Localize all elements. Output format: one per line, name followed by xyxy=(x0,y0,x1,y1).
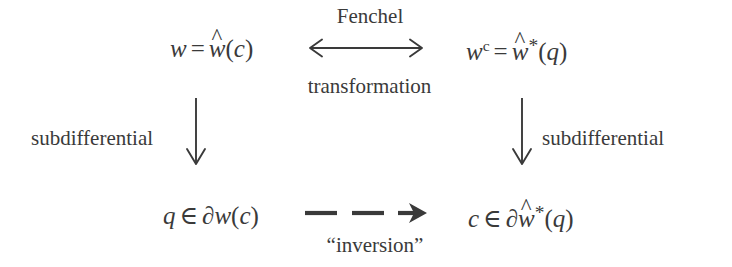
element-of-sign: ∈ xyxy=(483,205,502,232)
node-top-right-fn: w xyxy=(512,38,529,65)
node-top-right-arg: q xyxy=(546,38,559,65)
partial-derivative-symbol: ∂ xyxy=(202,202,214,229)
arrow-subdifferential-right-down xyxy=(506,98,538,168)
paren-close: ) xyxy=(251,202,259,229)
paren-open: ( xyxy=(225,35,233,62)
node-bottom-left-lhs: q xyxy=(163,202,176,229)
partial-derivative-symbol: ∂ xyxy=(506,205,518,232)
label-transformation: transformation xyxy=(287,76,452,97)
node-top-left-lhs: w xyxy=(170,35,187,62)
node-top-left: w=^w(c) xyxy=(170,36,253,61)
paren-open: ( xyxy=(544,205,552,232)
node-top-left-arg: c xyxy=(234,35,245,62)
arrow-inversion-dashed xyxy=(303,200,431,226)
node-top-left-fn: w xyxy=(209,35,226,62)
node-bottom-right: c∈∂^w*(q) xyxy=(468,203,574,231)
node-bottom-right-fn: w xyxy=(518,205,535,232)
w-hat-group: ^w xyxy=(209,36,226,61)
node-bottom-right-lhs: c xyxy=(468,205,479,232)
equals-sign: = xyxy=(191,35,205,62)
element-of-sign: ∈ xyxy=(180,202,199,229)
label-inversion: “inversion” xyxy=(300,235,450,256)
label-fenchel: Fenchel xyxy=(310,6,430,27)
paren-close: ) xyxy=(245,35,253,62)
node-bottom-left: q∈∂w(c) xyxy=(163,203,259,228)
paren-close: ) xyxy=(559,38,567,65)
label-subdifferential-right: subdifferential xyxy=(542,128,664,149)
node-top-right-lhs: w xyxy=(466,38,483,65)
node-top-right: wc=^w*(q) xyxy=(466,36,567,64)
equals-sign: = xyxy=(494,38,508,65)
node-top-right-lhs-superscript: c xyxy=(483,37,490,54)
fenchel-diagram: w=^w(c) wc=^w*(q) q∈∂w(c) c∈∂^w*(q) Fenc… xyxy=(0,0,732,267)
arrow-subdifferential-left-down xyxy=(180,98,212,168)
w-hat-group: ^w xyxy=(512,39,529,64)
star-superscript: * xyxy=(535,202,545,223)
w-hat-group: ^w xyxy=(518,206,535,231)
paren-close: ) xyxy=(565,205,573,232)
node-bottom-left-arg: c xyxy=(239,202,250,229)
label-subdifferential-left: subdifferential xyxy=(31,128,153,149)
node-bottom-left-fn: w xyxy=(214,202,231,229)
star-superscript: * xyxy=(528,35,538,56)
node-bottom-right-arg: q xyxy=(553,205,566,232)
arrow-fenchel-transformation-double xyxy=(305,36,427,60)
